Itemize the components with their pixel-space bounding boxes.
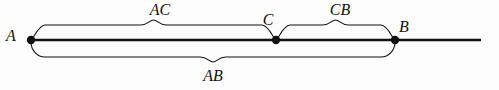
brace-ab xyxy=(31,42,395,62)
segment-ab-label: AB xyxy=(202,67,223,84)
point-b-label: B xyxy=(399,18,409,35)
segment-cb-label: CB xyxy=(330,1,351,18)
brace-cb xyxy=(276,20,395,40)
diagram-canvas: A C B AC CB AB xyxy=(0,0,499,90)
point-a-label: A xyxy=(5,27,16,44)
point-c-dot xyxy=(272,36,280,44)
point-a-dot xyxy=(27,36,35,44)
brace-ac xyxy=(31,20,276,40)
point-b-dot xyxy=(391,36,399,44)
point-c-label: C xyxy=(263,11,274,28)
segment-ac-label: AC xyxy=(149,1,171,18)
segment-diagram: A C B AC CB AB xyxy=(0,0,499,90)
